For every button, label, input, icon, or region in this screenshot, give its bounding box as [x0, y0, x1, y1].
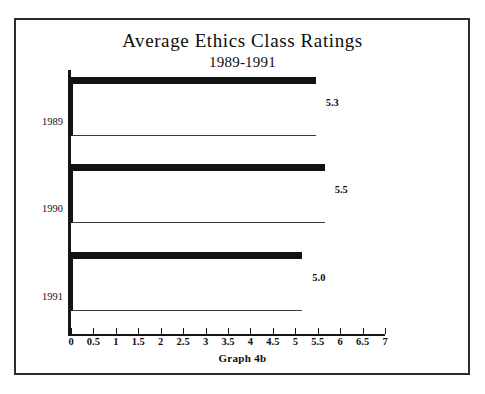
x-tick — [206, 328, 207, 334]
bar[interactable] — [71, 252, 302, 311]
x-tick-label: 6.5 — [356, 336, 369, 347]
x-tick-label: 4.5 — [266, 336, 279, 347]
chart-caption: Graph 4b — [0, 352, 485, 364]
bar[interactable] — [71, 77, 316, 136]
x-tick-label: 5.5 — [311, 336, 324, 347]
plot-area: 00.511.522.533.544.555.566.57 5.319895.5… — [71, 72, 385, 334]
x-tick — [161, 328, 162, 334]
chart-page: Average Ethics Class Ratings 1989-1991 0… — [0, 0, 485, 394]
x-tick-label: 0.5 — [87, 336, 100, 347]
x-tick-label: 0 — [68, 336, 73, 347]
x-tick — [295, 328, 296, 334]
x-tick-label: 4 — [248, 336, 253, 347]
x-tick-label: 5 — [293, 336, 298, 347]
x-tick-label: 1.5 — [132, 336, 145, 347]
x-tick — [228, 328, 229, 334]
x-tick-label: 1 — [113, 336, 118, 347]
x-tick — [385, 328, 386, 334]
x-tick-label: 2.5 — [177, 336, 190, 347]
x-tick-label: 3.5 — [221, 336, 234, 347]
bar-value-label: 5.3 — [326, 97, 339, 108]
x-tick — [363, 328, 364, 334]
bar[interactable] — [71, 164, 325, 223]
chart-subtitle: 1989-1991 — [0, 54, 485, 71]
x-tick — [273, 328, 274, 334]
x-tick — [93, 328, 94, 334]
x-tick — [138, 328, 139, 334]
bar-value-label: 5.5 — [335, 184, 348, 195]
chart-title: Average Ethics Class Ratings — [0, 30, 485, 52]
x-tick-label: 7 — [382, 336, 387, 347]
x-tick — [71, 328, 72, 334]
x-tick-label: 3 — [203, 336, 208, 347]
x-tick-label: 6 — [338, 336, 343, 347]
category-label: 1990 — [23, 203, 63, 214]
bar-value-label: 5.0 — [312, 272, 325, 283]
x-tick — [250, 328, 251, 334]
x-tick — [183, 328, 184, 334]
x-tick — [116, 328, 117, 334]
category-label: 1989 — [23, 116, 63, 127]
x-tick — [318, 328, 319, 334]
x-tick — [340, 328, 341, 334]
category-label: 1991 — [23, 291, 63, 302]
x-tick-label: 2 — [158, 336, 163, 347]
